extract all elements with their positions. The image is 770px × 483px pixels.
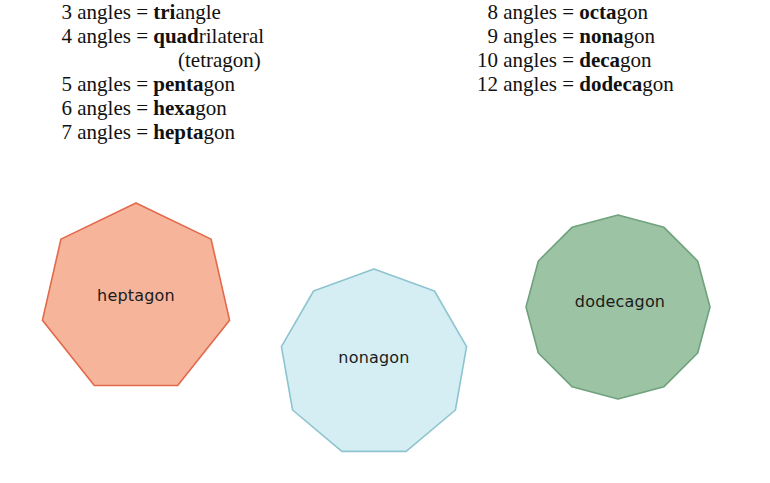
legend-line: (tetragon): [46, 48, 264, 72]
legend-suffix: gon: [620, 48, 652, 72]
legend-angle-count: 10: [472, 48, 498, 72]
legend-suffix: angle: [175, 0, 220, 24]
legend-prefix: penta: [153, 72, 203, 96]
legend-line: 12 angles = dodecagon: [472, 72, 674, 96]
nonagon-label: nonagon: [338, 348, 409, 367]
legend-line: 9 angles = nonagon: [472, 24, 674, 48]
legend-left-column: 3 angles = triangle4 angles = quadrilate…: [46, 0, 264, 144]
legend-alt-name: (tetragon): [178, 48, 261, 72]
legend-prefix: tri: [153, 0, 175, 24]
legend-suffix: gon: [617, 0, 649, 24]
legend-suffix: rilateral: [199, 24, 264, 48]
legend-suffix: gon: [642, 72, 674, 96]
heptagon-label: heptagon: [97, 286, 175, 305]
legend-angle-count: 6: [46, 96, 72, 120]
legend-prefix: deca: [579, 48, 620, 72]
dodecagon-label: dodecagon: [575, 292, 665, 311]
legend-prefix: dodeca: [579, 72, 642, 96]
legend-equals-phrase: angles =: [72, 72, 153, 96]
legend-angle-count: 8: [472, 0, 498, 24]
legend-line: 10 angles = decagon: [472, 48, 674, 72]
legend-equals-phrase: angles =: [498, 72, 579, 96]
legend-equals-phrase: angles =: [72, 120, 153, 144]
legend-line: 4 angles = quadrilateral: [46, 24, 264, 48]
legend-angle-count: 3: [46, 0, 72, 24]
legend-line: 6 angles = hexagon: [46, 96, 264, 120]
legend-angle-count: 7: [46, 120, 72, 144]
legend-prefix: nona: [579, 24, 623, 48]
legend-line: 5 angles = pentagon: [46, 72, 264, 96]
legend-line: 3 angles = triangle: [46, 0, 264, 24]
legend-equals-phrase: angles =: [72, 96, 153, 120]
legend-suffix: gon: [203, 120, 235, 144]
legend-suffix: gon: [195, 96, 227, 120]
legend-suffix: gon: [203, 72, 235, 96]
legend-angle-count: 4: [46, 24, 72, 48]
legend-prefix: hepta: [153, 120, 203, 144]
legend-equals-phrase: angles =: [498, 48, 579, 72]
legend-line: 8 angles = octagon: [472, 0, 674, 24]
legend-equals-phrase: angles =: [72, 24, 153, 48]
legend-angle-count: 9: [472, 24, 498, 48]
legend-suffix: gon: [624, 24, 656, 48]
legend-line: 7 angles = heptagon: [46, 120, 264, 144]
legend-right-column: 8 angles = octagon9 angles = nonagon10 a…: [472, 0, 674, 96]
legend-angle-count: 12: [472, 72, 498, 96]
legend-angle-count: 5: [46, 72, 72, 96]
polygon-name-legend: 3 angles = triangle4 angles = quadrilate…: [0, 0, 770, 190]
legend-equals-phrase: angles =: [498, 24, 579, 48]
legend-equals-phrase: angles =: [72, 0, 153, 24]
legend-equals-phrase: angles =: [498, 0, 579, 24]
legend-prefix: octa: [579, 0, 616, 24]
legend-prefix: hexa: [153, 96, 195, 120]
legend-prefix: quad: [153, 24, 199, 48]
